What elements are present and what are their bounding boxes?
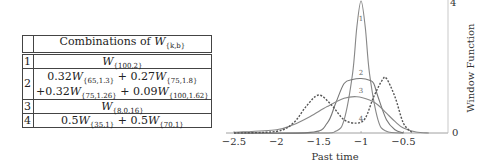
- window-function-chart: −2.5−2−1.5−1−0.504Past timeWindow Functi…: [0, 0, 486, 164]
- x-axis-label: Past time: [311, 151, 358, 162]
- curve-4: [234, 77, 412, 133]
- x-tick-label: −1: [354, 136, 369, 147]
- curve-label: 1: [359, 15, 363, 23]
- curve-label: 2: [359, 69, 363, 77]
- curve-1: [234, 1, 403, 133]
- x-tick-label: −1.5: [307, 136, 331, 147]
- x-tick-label: −0.5: [391, 136, 415, 147]
- y-axis-label: Window Function: [465, 23, 476, 113]
- x-tick-label: −2: [269, 136, 284, 147]
- x-tick-label: −2.5: [222, 136, 246, 147]
- y-tick-label: 0: [452, 127, 458, 138]
- curve-label: 3: [359, 87, 363, 95]
- curve-label: 4: [359, 115, 364, 123]
- y-tick-label: 4: [450, 0, 456, 8]
